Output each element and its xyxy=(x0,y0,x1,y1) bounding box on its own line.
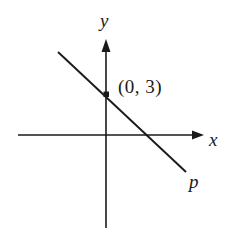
point-coordinate-label: (0, 3) xyxy=(118,77,162,96)
x-axis-arrowhead xyxy=(192,131,204,140)
graph-canvas xyxy=(0,0,234,237)
x-axis-label: x xyxy=(209,130,217,149)
y-axis-arrowhead xyxy=(102,39,111,52)
line-name-label: p xyxy=(189,172,199,191)
line-p xyxy=(58,52,186,172)
point-marker xyxy=(104,92,110,98)
coordinate-graph-figure: y x (0, 3) p xyxy=(0,0,234,237)
y-axis-label: y xyxy=(100,11,108,30)
